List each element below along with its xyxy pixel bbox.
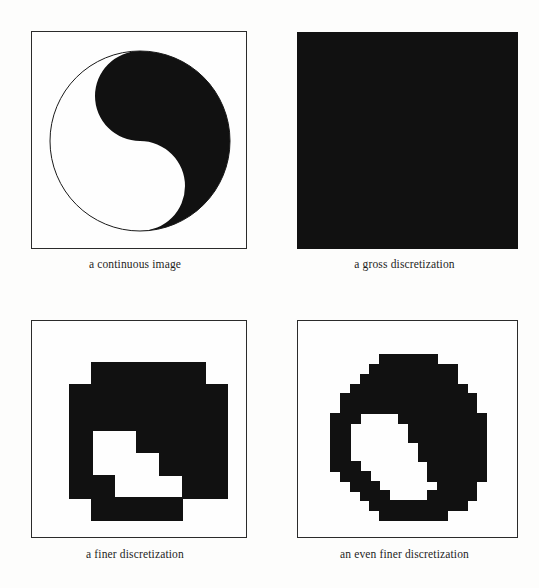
panel-finer-discretization: a finer discretization — [0, 294, 270, 588]
yin-yang-continuous-canvas — [32, 32, 246, 248]
pixel-grid-finer-canvas — [32, 321, 246, 537]
panel-even-finer-discretization: an even finer discretization — [270, 294, 539, 588]
caption-gross-discretization: a gross discretization — [270, 258, 539, 270]
figure-grid: a continuous image a gross discretizatio… — [0, 0, 539, 588]
caption-continuous-image: a continuous image — [0, 258, 270, 270]
caption-finer-discretization: a finer discretization — [0, 548, 270, 560]
panel-frame-gross-discretization — [297, 32, 518, 249]
caption-even-finer-discretization: an even finer discretization — [270, 548, 539, 560]
panel-continuous-image: a continuous image — [0, 0, 270, 294]
pixel-grid-even-finer-canvas — [298, 321, 517, 537]
panel-gross-discretization: a gross discretization — [270, 0, 539, 294]
